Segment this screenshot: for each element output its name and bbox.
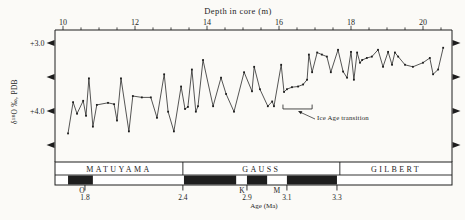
data-point-marker — [291, 86, 293, 88]
y-tick-triangle-right — [453, 142, 461, 148]
age-tick-label: 3.3 — [332, 193, 342, 202]
data-point-marker — [76, 113, 78, 115]
x-tick-label: 14 — [203, 18, 211, 27]
data-point-marker — [233, 111, 235, 113]
data-point-marker — [394, 52, 396, 54]
data-point-marker — [271, 101, 273, 103]
data-point-marker — [253, 66, 255, 68]
data-point-marker — [286, 88, 288, 90]
age-axis-label: Age (Ma) — [239, 202, 289, 210]
y-tick-triangle-left — [47, 142, 55, 148]
y-axis-label: δ¹⁸O ‰, PDB — [10, 71, 19, 133]
data-point-marker — [442, 47, 444, 49]
y-tick-label: +4.0 — [30, 107, 45, 116]
x-tick-label: 16 — [275, 18, 283, 27]
data-point-marker — [180, 86, 182, 88]
data-point-marker — [429, 57, 431, 59]
data-point-marker — [163, 73, 165, 75]
data-point-marker — [251, 90, 253, 92]
data-point-marker — [387, 51, 389, 53]
data-point-marker — [191, 69, 193, 71]
chart-canvas: 101214161820+3.0+4.01.8O2.42.9K3.1M3.3 — [0, 0, 465, 220]
data-point-marker — [82, 100, 84, 102]
data-point-marker — [156, 117, 158, 119]
y-tick-triangle-left — [47, 108, 55, 114]
data-point-marker — [283, 91, 285, 93]
y-tick-triangle-left — [47, 74, 55, 80]
data-point-marker — [437, 69, 439, 71]
data-point-marker — [225, 93, 227, 95]
data-point-marker — [359, 62, 361, 64]
y-tick-triangle-left — [47, 40, 55, 46]
data-point-marker — [96, 104, 98, 106]
data-point-marker — [337, 49, 339, 51]
data-point-marker — [361, 59, 363, 61]
data-point-marker — [422, 62, 424, 64]
data-point-marker — [195, 111, 197, 113]
data-point-marker — [187, 106, 189, 108]
y-tick-triangle-right — [453, 74, 461, 80]
data-point-marker — [212, 105, 214, 107]
chron-label-gauss: GAUSS — [201, 164, 321, 175]
annotation-arrow-line — [301, 112, 316, 119]
data-point-marker — [220, 77, 222, 79]
data-point-marker — [377, 49, 379, 51]
data-point-marker — [92, 126, 94, 128]
data-series-line — [68, 48, 443, 134]
data-point-marker — [113, 103, 115, 105]
data-point-marker — [412, 66, 414, 68]
data-point-marker — [404, 64, 406, 66]
data-point-marker — [85, 115, 87, 117]
data-point-marker — [366, 57, 368, 59]
data-point-marker — [132, 95, 134, 97]
normal-polarity-segment — [184, 176, 236, 185]
polarity-event-label: K — [239, 186, 245, 195]
data-point-marker — [72, 101, 74, 103]
x-tick-label: 20 — [419, 18, 427, 27]
normal-polarity-segment — [247, 176, 267, 185]
data-point-marker — [259, 88, 261, 90]
data-point-marker — [342, 71, 344, 73]
data-point-marker — [350, 51, 352, 53]
data-point-marker — [267, 105, 269, 107]
data-point-marker — [128, 131, 130, 133]
data-point-marker — [316, 52, 318, 54]
x-tick-label: 10 — [59, 18, 67, 27]
x-axis-title: Depth in core (m) — [163, 6, 313, 16]
chron-label-gilbert: GILBERT — [336, 164, 456, 175]
y-tick-triangle-right — [453, 108, 461, 114]
data-point-marker — [202, 59, 204, 61]
oxygen-isotope-figure: 101214161820+3.0+4.01.8O2.42.9K3.1M3.3 D… — [0, 0, 465, 220]
data-point-marker — [197, 105, 199, 107]
data-point-marker — [391, 64, 393, 66]
data-point-marker — [67, 133, 69, 135]
data-point-marker — [321, 54, 323, 56]
age-tick-label: 2.4 — [178, 193, 188, 202]
data-point-marker — [167, 111, 169, 113]
normal-polarity-segment — [68, 176, 93, 185]
data-point-marker — [273, 105, 275, 107]
plot-frame — [55, 30, 452, 162]
chron-label-matuyama: MATUYAMA — [59, 164, 179, 175]
data-point-marker — [306, 79, 308, 81]
data-point-marker — [353, 79, 355, 81]
normal-polarity-segment — [287, 176, 337, 185]
data-point-marker — [397, 56, 399, 58]
data-point-marker — [150, 97, 152, 99]
x-tick-label: 12 — [131, 18, 139, 27]
polarity-event-label: O — [79, 186, 85, 195]
data-point-marker — [308, 54, 310, 56]
y-tick-label: +3.0 — [30, 39, 45, 48]
age-tick-label: 3.1 — [282, 193, 292, 202]
data-point-marker — [280, 64, 282, 66]
data-point-marker — [311, 71, 313, 73]
x-tick-label: 18 — [347, 18, 355, 27]
data-point-marker — [356, 52, 358, 54]
data-point-marker — [302, 84, 304, 86]
data-point-marker — [184, 108, 186, 110]
ice-age-transition-label: Ice Age transition — [317, 114, 369, 121]
data-point-marker — [88, 77, 90, 79]
transition-bracket — [283, 105, 312, 109]
data-point-marker — [382, 66, 384, 68]
data-point-marker — [432, 73, 434, 75]
